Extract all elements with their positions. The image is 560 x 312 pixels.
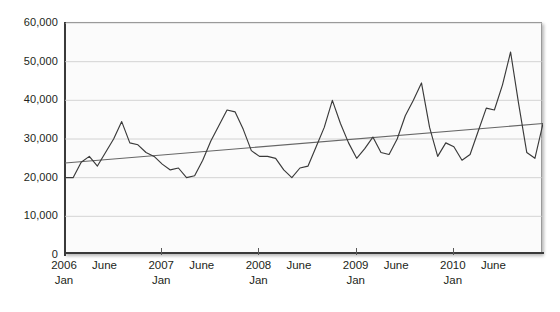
x-tick-label-secondary: Jan <box>321 273 391 288</box>
plot-svg <box>65 23 543 255</box>
data-line-series <box>65 52 543 178</box>
line-chart: 60,00050,00040,00030,00020,00010,0000 20… <box>0 0 560 312</box>
x-tick-label-secondary: Jan <box>29 273 99 288</box>
x-tick-mark <box>453 248 454 255</box>
y-tick-label: 10,000 <box>0 210 58 221</box>
x-tick-mark <box>356 248 357 255</box>
plot-area <box>64 22 542 254</box>
x-tick-group: June <box>458 258 528 273</box>
x-tick-mark <box>258 248 259 255</box>
y-tick-label: 40,000 <box>0 94 58 105</box>
x-tick-label-secondary: Jan <box>126 273 196 288</box>
x-tick-label-primary: June <box>458 258 528 273</box>
y-tick-label: 60,000 <box>0 17 58 28</box>
trend-line-series <box>65 124 543 163</box>
y-tick-label: 30,000 <box>0 133 58 144</box>
x-tick-mark <box>161 248 162 255</box>
y-tick-label: 20,000 <box>0 171 58 182</box>
x-tick-label-secondary: Jan <box>418 273 488 288</box>
x-tick-label-secondary: Jan <box>223 273 293 288</box>
gridlines <box>65 23 543 216</box>
x-axis-labels: 2006JanJune2007JanJune2008JanJune2009Jan… <box>64 258 542 308</box>
y-tick-label: 50,000 <box>0 55 58 66</box>
